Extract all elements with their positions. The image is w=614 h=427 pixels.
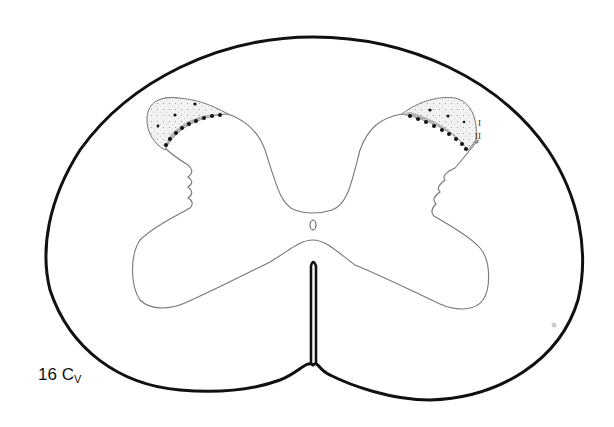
caption-subscript: V xyxy=(74,373,81,385)
figure-caption: 16 CV xyxy=(38,365,81,385)
stray-mark xyxy=(552,323,557,328)
outer-outline xyxy=(46,37,583,400)
central-canal xyxy=(310,220,316,230)
ventral-median-fissure xyxy=(311,262,316,364)
caption-number: 16 xyxy=(38,365,57,384)
right-dorsal-horn-cap xyxy=(402,98,476,151)
spinal-cord-diagram xyxy=(0,0,614,427)
lamina-II-label: II xyxy=(475,131,481,141)
lamina-I-label: I xyxy=(478,118,481,128)
left-dorsal-horn-cap xyxy=(147,98,228,150)
caption-segment: C xyxy=(62,365,74,384)
